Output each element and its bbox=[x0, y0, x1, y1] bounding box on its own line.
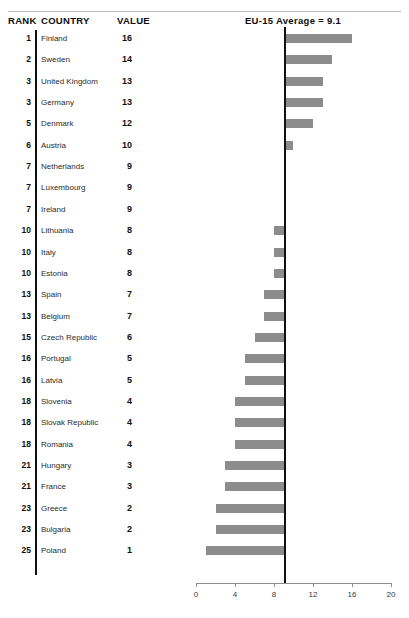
eu15-average-reference-line bbox=[284, 27, 286, 584]
x-axis-tick bbox=[235, 583, 236, 587]
table-row: 16Latvia5 bbox=[0, 370, 409, 391]
value-bar bbox=[264, 312, 284, 321]
value-bar bbox=[285, 34, 352, 43]
cell-country: France bbox=[41, 476, 119, 497]
cell-country: Greece bbox=[41, 498, 119, 519]
table-row: 18Romania4 bbox=[0, 434, 409, 455]
cell-rank: 7 bbox=[0, 199, 31, 220]
cell-rank: 2 bbox=[0, 49, 31, 70]
table-row: 23Bulgaria2 bbox=[0, 519, 409, 540]
value-bar bbox=[235, 440, 285, 449]
cell-country: Czech Republic bbox=[41, 327, 119, 348]
cell-rank: 10 bbox=[0, 242, 31, 263]
x-axis-tick-label: 0 bbox=[184, 590, 208, 599]
cell-value: 13 bbox=[110, 71, 132, 92]
table-row: 16Portugal5 bbox=[0, 348, 409, 369]
cell-country: Poland bbox=[41, 540, 119, 561]
cell-value: 10 bbox=[110, 135, 132, 156]
cell-value: 7 bbox=[110, 284, 132, 305]
cell-rank: 21 bbox=[0, 476, 31, 497]
cell-value: 13 bbox=[110, 92, 132, 113]
cell-value: 5 bbox=[110, 348, 132, 369]
x-axis-tick-label: 4 bbox=[223, 590, 247, 599]
cell-rank: 13 bbox=[0, 284, 31, 305]
cell-value: 8 bbox=[110, 220, 132, 241]
cell-country: Austria bbox=[41, 135, 119, 156]
table-row: 21Hungary3 bbox=[0, 455, 409, 476]
cell-value: 2 bbox=[110, 498, 132, 519]
x-axis-tick bbox=[391, 583, 392, 587]
cell-country: Finland bbox=[41, 28, 119, 49]
cell-rank: 7 bbox=[0, 156, 31, 177]
cell-rank: 16 bbox=[0, 348, 31, 369]
value-bar bbox=[285, 77, 323, 86]
value-bar bbox=[285, 141, 294, 150]
table-row: 10Estonia8 bbox=[0, 263, 409, 284]
value-bar bbox=[255, 333, 285, 342]
cell-rank: 7 bbox=[0, 177, 31, 198]
cell-rank: 18 bbox=[0, 391, 31, 412]
x-axis-line bbox=[196, 583, 391, 584]
cell-country: Bulgaria bbox=[41, 519, 119, 540]
cell-value: 3 bbox=[110, 476, 132, 497]
value-bar bbox=[285, 119, 313, 128]
value-bar bbox=[245, 376, 285, 385]
cell-country: Slovenia bbox=[41, 391, 119, 412]
value-bar bbox=[285, 55, 333, 64]
cell-country: Lithuania bbox=[41, 220, 119, 241]
cell-value: 4 bbox=[110, 391, 132, 412]
cell-country: Belgium bbox=[41, 306, 119, 327]
table-row: 10Lithuania8 bbox=[0, 220, 409, 241]
x-axis-tick-label: 20 bbox=[379, 590, 403, 599]
table-row: 5Denmark12 bbox=[0, 113, 409, 134]
cell-rank: 15 bbox=[0, 327, 31, 348]
value-bar bbox=[225, 461, 284, 470]
cell-rank: 23 bbox=[0, 498, 31, 519]
cell-value: 3 bbox=[110, 455, 132, 476]
x-axis-tick bbox=[274, 583, 275, 587]
cell-rank: 1 bbox=[0, 28, 31, 49]
cell-value: 9 bbox=[110, 199, 132, 220]
value-bar bbox=[225, 482, 284, 491]
cell-rank: 18 bbox=[0, 412, 31, 433]
table-row: 7Ireland9 bbox=[0, 199, 409, 220]
cell-value: 8 bbox=[110, 263, 132, 284]
table-row: 13Belgium7 bbox=[0, 306, 409, 327]
cell-rank: 16 bbox=[0, 370, 31, 391]
cell-value: 4 bbox=[110, 412, 132, 433]
cell-rank: 18 bbox=[0, 434, 31, 455]
table-row: 7Netherlands9 bbox=[0, 156, 409, 177]
table-row: 13Spain7 bbox=[0, 284, 409, 305]
table-row: 7Luxembourg9 bbox=[0, 177, 409, 198]
cell-value: 4 bbox=[110, 434, 132, 455]
x-axis-tick bbox=[352, 583, 353, 587]
cell-value: 9 bbox=[110, 156, 132, 177]
table-row: 3United Kingdom13 bbox=[0, 71, 409, 92]
cell-value: 6 bbox=[110, 327, 132, 348]
x-axis-tick-label: 16 bbox=[340, 590, 364, 599]
cell-rank: 10 bbox=[0, 263, 31, 284]
cell-rank: 6 bbox=[0, 135, 31, 156]
x-axis-tick-label: 12 bbox=[301, 590, 325, 599]
cell-value: 5 bbox=[110, 370, 132, 391]
x-axis-tick-label: 8 bbox=[262, 590, 286, 599]
table-row: 2Sweden14 bbox=[0, 49, 409, 70]
cell-country: Spain bbox=[41, 284, 119, 305]
table-row: 21France3 bbox=[0, 476, 409, 497]
x-axis-tick bbox=[196, 583, 197, 587]
cell-value: 12 bbox=[110, 113, 132, 134]
chart-x-axis: 048121620 bbox=[0, 583, 409, 618]
cell-rank: 13 bbox=[0, 306, 31, 327]
table-row: 6Austria10 bbox=[0, 135, 409, 156]
cell-country: Romania bbox=[41, 434, 119, 455]
table-row: 1Finland16 bbox=[0, 28, 409, 49]
cell-rank: 23 bbox=[0, 519, 31, 540]
cell-rank: 3 bbox=[0, 71, 31, 92]
cell-country: Netherlands bbox=[41, 156, 119, 177]
cell-rank: 10 bbox=[0, 220, 31, 241]
cell-country: Luxembourg bbox=[41, 177, 119, 198]
table-row: 18Slovak Republic4 bbox=[0, 412, 409, 433]
cell-rank: 5 bbox=[0, 113, 31, 134]
table-row: 3Germany13 bbox=[0, 92, 409, 113]
table-row: 10Italy8 bbox=[0, 242, 409, 263]
